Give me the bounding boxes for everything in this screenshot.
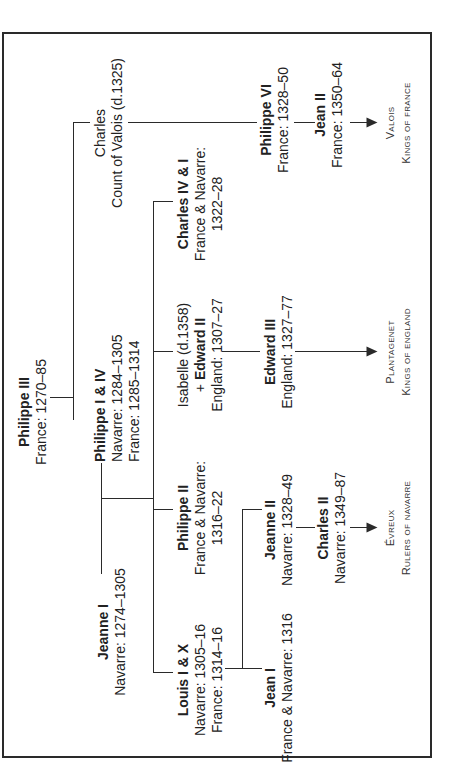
node-reign: France: 1270–85 <box>33 359 50 465</box>
connector-line <box>153 351 173 352</box>
connector-line <box>242 668 262 669</box>
node-reign: 1316–22 <box>209 461 226 575</box>
node-title: Count of Valois (d.1325) <box>109 58 126 208</box>
dynasty-valois: Valois Kings of France <box>382 82 414 164</box>
connector-line <box>296 527 315 528</box>
dynasty-role: Kings of France <box>398 82 414 164</box>
node-reign: Navarre: 1284–1305 <box>109 334 126 462</box>
node-reign: France & Navarre: <box>192 147 209 261</box>
node-isabelle-edward-ii: Isabelle (d.1358) + Edward II England: 1… <box>175 298 226 412</box>
node-reign: France & Navarre: 1316 <box>279 613 296 762</box>
node-reign: Navarre: 1274–1305 <box>112 568 129 696</box>
dynasty-role: Rulers of Navarre <box>398 481 414 575</box>
arrow-icon <box>367 523 378 533</box>
node-name: Jeanne I <box>95 568 112 696</box>
node-name: Jeanne II <box>262 474 279 586</box>
connector-line <box>153 202 154 673</box>
node-reign: Navarre: 1328–49 <box>279 474 296 586</box>
connector-line <box>153 201 173 202</box>
node-name: Edward III <box>262 295 279 409</box>
node-name: Philippe VI <box>258 67 275 173</box>
dynasty-evreux: Évreux Rulers of Navarre <box>382 481 414 575</box>
connector-line <box>153 672 173 673</box>
dynasty-name: Évreux <box>382 481 398 575</box>
node-name: Louis I & X <box>175 624 192 736</box>
connector-line <box>73 411 74 412</box>
node-name: Philippe II <box>175 461 192 575</box>
node-reign: France: 1328–50 <box>275 67 292 173</box>
connector-line <box>242 509 262 510</box>
spouse-name: Edward II <box>192 318 208 380</box>
node-jeanne-i: Jeanne I Navarre: 1274–1305 <box>95 568 129 696</box>
connector-line <box>242 510 243 669</box>
node-reign: France: 1314–16 <box>209 624 226 736</box>
connector-line <box>101 498 153 499</box>
node-philippe-ii: Philippe II France & Navarre: 1316–22 <box>175 461 226 575</box>
node-charles-ii: Charles II Navarre: 1349–87 <box>315 472 349 584</box>
connector-line <box>295 351 371 352</box>
connector-line <box>153 509 173 510</box>
node-charles-valois: Charles Count of Valois (d.1325) <box>92 58 126 208</box>
node-reign: 1322–28 <box>209 147 226 261</box>
node-name: Jean I <box>262 613 279 762</box>
node-jean-i: Jean I France & Navarre: 1316 <box>262 613 296 762</box>
arrow-icon <box>367 118 378 128</box>
node-name: Philippe I & IV <box>92 334 109 462</box>
node-philippe-vi: Philippe VI France: 1328–50 <box>258 67 292 173</box>
connector-line <box>73 123 74 398</box>
dynasty-name: Valois <box>382 82 398 164</box>
node-reign: England: 1307–27 <box>209 298 226 412</box>
node-philippe-iii: Philippe III France: 1270–85 <box>16 359 50 465</box>
node-reign: France: 1285–1314 <box>126 334 143 462</box>
node-jean-ii: Jean II France: 1350–64 <box>312 62 346 168</box>
spouse-prefix: + <box>192 380 208 392</box>
dynasty-role: Kings of England <box>398 308 414 396</box>
dynasty-plantagenet: Plantagenet Kings of England <box>382 308 414 396</box>
connector-line <box>73 398 74 420</box>
node-reign: Navarre: 1305–16 <box>192 624 209 736</box>
connector-line <box>128 122 257 123</box>
node-jeanne-ii: Jeanne II Navarre: 1328–49 <box>262 474 296 586</box>
node-reign: Navarre: 1349–87 <box>332 472 349 584</box>
connector-line <box>222 351 260 352</box>
node-name: Philippe III <box>16 359 33 465</box>
connector-line <box>225 668 242 669</box>
node-name: Charles II <box>315 472 332 584</box>
node-charles-iv-i: Charles IV & I France & Navarre: 1322–28 <box>175 147 226 261</box>
node-reign: England: 1327–77 <box>279 295 296 409</box>
node-name: Charles <box>92 58 109 208</box>
arrow-icon <box>367 347 378 357</box>
node-reign: France: 1350–64 <box>329 62 346 168</box>
connector-line <box>50 397 74 398</box>
node-philippe-i-iv: Philippe I & IV Navarre: 1284–1305 Franc… <box>92 334 143 462</box>
connector-line <box>73 122 90 123</box>
node-reign: France & Navarre: <box>192 461 209 575</box>
marriage-line <box>101 463 102 574</box>
node-louis-i-x: Louis I & X Navarre: 1305–16 France: 131… <box>175 624 226 736</box>
node-name: Charles IV & I <box>175 147 192 261</box>
node-name: Isabelle (d.1358) <box>175 298 192 412</box>
node-edward-iii: Edward III England: 1327–77 <box>262 295 296 409</box>
dynasty-name: Plantagenet <box>382 308 398 396</box>
node-name: Jean II <box>312 62 329 168</box>
